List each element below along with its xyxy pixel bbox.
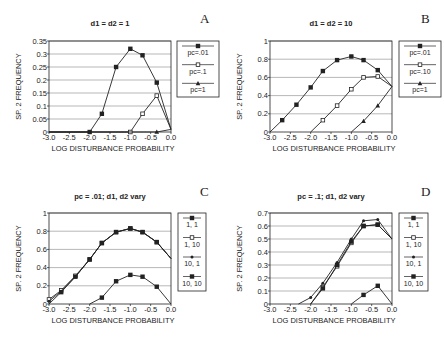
plot-frame: [49, 213, 171, 304]
series-line: [311, 76, 392, 132]
y-tick-label: 0.4: [258, 91, 268, 100]
legend-marker: [411, 274, 415, 278]
data-point: [155, 285, 159, 289]
legend-label: 1, 1: [186, 221, 198, 228]
y-tick-label: 0.25: [32, 63, 47, 72]
data-point: [335, 104, 339, 108]
series-10-10: [311, 223, 392, 305]
y-tick-label: 0.3: [37, 50, 47, 59]
legend: 1, 11, 1010, 110, 10: [399, 213, 428, 291]
x-tick-label: -2.5: [284, 133, 297, 142]
x-tick-label: -2.5: [63, 133, 76, 142]
y-tick-label: 0.5: [258, 235, 268, 244]
x-tick-label: -2.0: [83, 133, 96, 142]
legend-marker: [418, 44, 422, 48]
legend-label: 10, 10: [404, 280, 424, 287]
data-point: [376, 223, 380, 227]
legend-marker: [190, 216, 194, 220]
y-axis-title: SP. 2 FREQUENCY: [14, 53, 23, 120]
series-line: [49, 129, 171, 132]
x-tick-label: -3.0: [43, 305, 56, 314]
y-tick-label: 0.6: [258, 222, 268, 231]
panel-letter: D: [421, 184, 430, 199]
data-point: [376, 284, 380, 288]
y-tick-label: 0.2: [37, 76, 47, 85]
legend-marker: [196, 44, 200, 48]
y-tick-label: 0.1: [258, 287, 268, 296]
legend-marker: [411, 216, 415, 220]
data-point: [361, 58, 365, 62]
legend-label: 10, 10: [182, 280, 202, 287]
series-line: [270, 56, 392, 132]
y-tick-label: 0.8: [37, 227, 47, 236]
data-point: [349, 54, 353, 58]
series-line: [49, 228, 171, 304]
data-point: [361, 224, 365, 228]
data-point: [114, 65, 118, 69]
data-point: [335, 263, 339, 267]
y-tick-label: 0.2: [37, 281, 47, 290]
data-point: [349, 239, 353, 243]
data-point: [100, 112, 104, 116]
plot-frame: [270, 41, 392, 132]
x-tick-label: -1.0: [124, 133, 137, 142]
data-point: [100, 241, 104, 245]
y-tick-label: 0.15: [32, 89, 47, 98]
x-tick-label: 0.0: [166, 305, 176, 314]
data-point: [114, 279, 118, 283]
data-point: [376, 218, 379, 221]
legend-item: 1, 10: [183, 236, 201, 248]
panel-letter: C: [200, 184, 209, 199]
y-tick-label: 0.35: [32, 37, 47, 46]
panel-letter: A: [200, 11, 210, 26]
x-tick-label: -2.0: [304, 133, 317, 142]
chart-panel-d: Dpc = .1; d1, d2 vary00.10.20.30.40.50.6…: [235, 184, 430, 325]
legend: 1, 11, 1010, 110, 10: [178, 213, 206, 291]
data-point: [128, 226, 132, 230]
data-point: [128, 273, 132, 277]
y-tick-label: 0.8: [258, 55, 268, 64]
legend-marker: [190, 274, 194, 278]
data-point: [48, 300, 51, 303]
series-pc-01: [270, 54, 392, 132]
chart-title: d1 = d2 = 10: [310, 19, 353, 28]
data-point: [141, 112, 145, 116]
data-point: [361, 293, 365, 297]
chart-panel-a: Ad1 = d2 = 100.050.10.150.20.250.30.35-3…: [14, 11, 219, 153]
legend-label: 1, 10: [406, 241, 422, 248]
chart-panel-b: Bd1 = d2 = 1000.20.40.60.81-3.0-2.5-2.0-…: [235, 11, 441, 153]
data-point: [155, 80, 159, 84]
legend-marker: [191, 256, 194, 259]
y-tick-label: 0.2: [258, 274, 268, 283]
data-point: [321, 69, 325, 73]
x-axis-title: LOG DISTURBANCE PROBABILITY: [52, 316, 175, 325]
data-point: [87, 257, 91, 261]
x-tick-label: -0.5: [365, 305, 378, 314]
data-point: [155, 94, 159, 98]
series-line: [49, 96, 171, 132]
series-10-1: [48, 227, 172, 303]
data-point: [376, 75, 380, 79]
data-point: [321, 282, 324, 285]
legend-marker: [412, 236, 416, 240]
x-tick-label: -3.0: [264, 133, 277, 142]
y-axis-title: SP. 2 FREQUENCY: [235, 53, 244, 120]
x-tick-label: -2.0: [304, 305, 317, 314]
y-axis-title: SP. 2 FREQUENCY: [235, 225, 244, 292]
data-point: [114, 230, 118, 234]
series-1-10: [311, 223, 392, 304]
series-pc-01: [49, 47, 171, 135]
y-tick-label: 0.6: [258, 73, 268, 82]
x-tick-label: 0.0: [387, 133, 397, 142]
data-point: [155, 240, 159, 244]
chart-title: pc = .01; d1, d2 vary: [74, 192, 146, 201]
x-tick-label: -1.5: [325, 133, 338, 142]
series-1-1: [351, 284, 392, 304]
data-point: [100, 295, 104, 299]
data-point: [376, 68, 380, 72]
y-tick-label: 0.4: [37, 263, 47, 272]
x-tick-label: -1.0: [124, 305, 137, 314]
legend-label: pc=.1: [189, 68, 206, 76]
legend-label: 1, 10: [184, 241, 200, 248]
data-point: [280, 118, 284, 122]
